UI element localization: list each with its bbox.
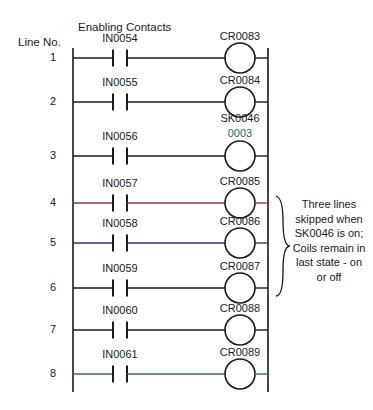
line-no-header: Line No. [18, 36, 61, 48]
rung [73, 359, 268, 389]
line-number: 5 [28, 236, 56, 248]
coil-label: CR0084 [200, 74, 280, 86]
contact-label: IN0055 [80, 76, 160, 88]
coil-symbol [225, 228, 255, 258]
rung [73, 228, 268, 258]
contact-label: IN0059 [80, 262, 160, 274]
coil-symbol [225, 141, 255, 171]
coil-symbol [225, 359, 255, 389]
rung [73, 273, 268, 303]
coil-label: CR0087 [200, 260, 280, 272]
coil-symbol [225, 43, 255, 73]
coil-symbol [225, 315, 255, 345]
coil-label: CR0088 [200, 302, 280, 314]
line-number: 7 [28, 323, 56, 335]
contact-label: IN0058 [80, 217, 160, 229]
coil-label: CR0083 [200, 30, 280, 42]
rung [73, 188, 268, 218]
coil-label: CR0085 [200, 175, 280, 187]
line-number: 4 [28, 196, 56, 208]
coil-symbol [225, 188, 255, 218]
rung [73, 315, 268, 345]
line-number: 8 [28, 367, 56, 379]
contact-label: IN0056 [80, 130, 160, 142]
rung [73, 141, 268, 171]
line-number: 1 [28, 51, 56, 63]
coil-symbol [225, 273, 255, 303]
coil-label: CR0086 [200, 215, 280, 227]
skip-annotation: Three lines skipped when SK0046 is on; C… [288, 197, 370, 284]
line-number: 6 [28, 281, 56, 293]
coil-sublabel: 0003 [200, 127, 280, 139]
coil-label: SK0046 [200, 112, 280, 124]
line-number: 3 [28, 149, 56, 161]
rung [73, 43, 268, 73]
coil-label: CR0089 [200, 346, 280, 358]
line-number: 2 [28, 95, 56, 107]
contact-label: IN0061 [80, 348, 160, 360]
contact-label: IN0054 [80, 32, 160, 44]
contact-label: IN0057 [80, 177, 160, 189]
contact-label: IN0060 [80, 304, 160, 316]
